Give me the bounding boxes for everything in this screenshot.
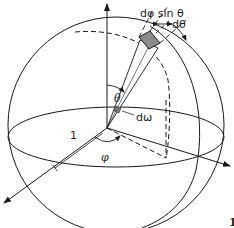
phi-arc (95, 136, 120, 142)
dash-ext-4 (156, 20, 170, 33)
y-axis (107, 128, 230, 166)
solid-angle-diagram: dφ sin θ dθ θ dω φ 1 1 (0, 0, 234, 228)
label-radius: 1 (70, 129, 77, 142)
equator-ellipse (8, 107, 224, 167)
label-phi: φ (101, 151, 109, 164)
label-theta: θ (114, 92, 121, 105)
radius-bracket (55, 133, 103, 168)
x-axis (4, 128, 107, 203)
label-domega: dω (136, 111, 152, 124)
sphere-outline (8, 17, 224, 228)
label-figure-number: 1 (229, 216, 234, 228)
domega-leader (122, 111, 134, 115)
label-dtheta: dθ (172, 18, 186, 31)
